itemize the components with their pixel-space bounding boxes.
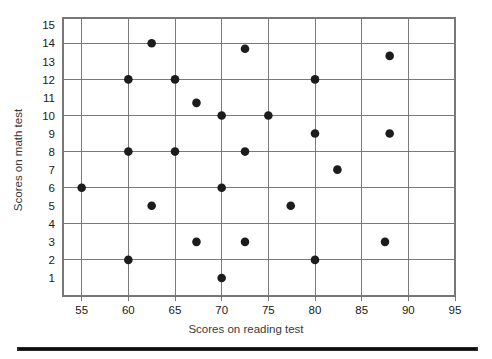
data-point [171, 147, 180, 156]
y-tick-label-5: 5 [49, 200, 55, 212]
data-point [217, 111, 226, 120]
x-tick-label-55: 55 [75, 304, 88, 316]
y-tick-label-9: 9 [49, 128, 55, 140]
x-tick-label-65: 65 [169, 304, 182, 316]
x-tick-label-85: 85 [355, 304, 368, 316]
x-axis-title: Scores on reading test [188, 323, 304, 335]
data-point [217, 274, 226, 283]
y-tick-label-6: 6 [49, 182, 55, 194]
data-point [217, 183, 226, 192]
x-tick-label-90: 90 [402, 304, 415, 316]
y-tick-label-3: 3 [49, 236, 55, 248]
x-tick-label-75: 75 [262, 304, 275, 316]
x-tick-label-95: 95 [449, 304, 462, 316]
data-point [381, 238, 390, 247]
data-point [124, 75, 133, 84]
data-point [147, 39, 156, 48]
data-point [147, 201, 156, 210]
x-axis-tick-labels: 556065707580859095 [75, 304, 461, 316]
data-point [241, 238, 250, 247]
data-point [192, 238, 201, 247]
x-tick-label-70: 70 [215, 304, 228, 316]
data-point [333, 165, 342, 174]
y-tick-label-2: 2 [49, 254, 55, 266]
data-point [385, 52, 394, 61]
y-tick-label-11: 11 [43, 92, 55, 104]
data-point [241, 44, 250, 53]
data-point [241, 147, 250, 156]
scatter-plot-figure: 123456789101112131415 556065707580859095… [0, 0, 492, 359]
data-point [192, 99, 201, 108]
data-point [77, 183, 86, 192]
y-tick-label-13: 13 [42, 56, 55, 68]
y-tick-label-4: 4 [49, 218, 56, 230]
y-tick-label-14: 14 [42, 37, 55, 49]
data-point [124, 256, 133, 265]
data-point [124, 147, 133, 156]
y-tick-label-1: 1 [49, 272, 55, 284]
data-point [385, 129, 394, 138]
data-point [286, 201, 295, 210]
y-axis-title: Scores on math test [12, 108, 24, 211]
y-tick-label-8: 8 [49, 146, 55, 158]
data-point [311, 256, 320, 265]
chart-canvas: 123456789101112131415 556065707580859095… [0, 0, 492, 359]
data-point [171, 75, 180, 84]
y-tick-label-7: 7 [49, 164, 55, 176]
data-point [311, 75, 320, 84]
bottom-divider-rule-core [19, 348, 476, 350]
chart-background [0, 0, 492, 359]
x-tick-label-60: 60 [122, 304, 135, 316]
y-tick-label-12: 12 [42, 74, 55, 86]
data-point [311, 129, 320, 138]
y-tick-label-15: 15 [42, 19, 55, 31]
y-tick-label-10: 10 [42, 110, 55, 122]
data-point [264, 111, 273, 120]
x-tick-label-80: 80 [309, 304, 322, 316]
